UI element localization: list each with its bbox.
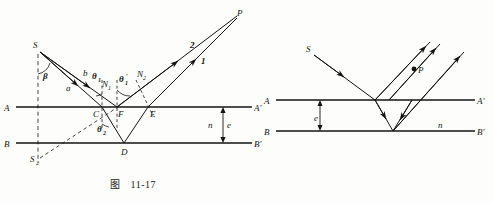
label-surface-B: B: [4, 139, 10, 149]
label-point-E: E: [149, 109, 156, 119]
label-surface-A-prime: A': [476, 96, 485, 106]
label-normal-N1: N 1: [101, 79, 111, 91]
label-point-D: D: [120, 147, 128, 157]
figure-11-17-caption: 图11-17: [110, 176, 156, 191]
angle-theta1-prime-arc: [117, 90, 130, 96]
caption-number: 11-17: [131, 179, 156, 190]
svg-text:2: 2: [36, 160, 39, 166]
incident-ray-S-arrow: [314, 55, 344, 77]
figure-11-18: S P A A' B B' e n 图11-18: [262, 0, 493, 203]
label-segment-a: a: [66, 83, 71, 93]
second-emergent-ray-arrow: [393, 56, 460, 131]
label-point-F: F: [117, 109, 124, 119]
label-index-n: n: [208, 120, 213, 130]
figure-11-18-drawing: S P A A' B B' e n: [262, 0, 493, 175]
label-surface-A: A: [3, 103, 10, 113]
caption-prefix: 图: [110, 179, 121, 190]
svg-text:′: ′: [126, 73, 128, 79]
figure-page: S P C F E D A A' B B' β a b θ 1 N 1 θ: [0, 0, 493, 203]
svg-text:1: 1: [98, 77, 101, 83]
label-surface-B: B: [264, 127, 270, 137]
label-normal-N2: N 2: [136, 69, 146, 81]
svg-text:1: 1: [125, 80, 128, 86]
label-index-n: n: [438, 120, 443, 130]
svg-text:2: 2: [102, 130, 106, 136]
svg-text:2: 2: [143, 75, 146, 81]
svg-text:S: S: [30, 154, 35, 164]
thickness-arrow-down: [318, 125, 323, 131]
reflected-ray-D-to-E: [124, 107, 148, 143]
label-surface-A: A: [263, 96, 270, 106]
label-angle-theta1: θ 1: [92, 71, 101, 83]
figure-11-17-drawing: S P C F E D A A' B B' β a b θ 1 N 1 θ: [0, 0, 262, 175]
label-angle-beta: β: [42, 71, 48, 81]
angle-theta2-arc: [102, 124, 109, 127]
svg-text:θ: θ: [97, 124, 102, 134]
figure-11-17: S P C F E D A A' B B' β a b θ 1 N 1 θ: [0, 0, 262, 203]
label-point-P: P: [236, 8, 243, 18]
emergent-ray-through-P-arrow: [389, 48, 436, 100]
svg-text:θ: θ: [92, 71, 97, 81]
label-source-S: S: [33, 40, 38, 50]
label-source-S: S: [306, 44, 311, 54]
thickness-arrow-down: [220, 137, 225, 143]
label-thickness-e: e: [314, 113, 318, 123]
label-point-C: C: [93, 109, 100, 119]
svg-text:1: 1: [108, 85, 111, 91]
point-P-dot: [412, 67, 417, 72]
label-point-P: P: [417, 65, 424, 75]
svg-text:θ: θ: [119, 74, 124, 84]
thickness-arrow-up: [318, 100, 323, 106]
label-surface-B-prime: B': [477, 127, 485, 137]
thickness-arrow-up: [220, 107, 225, 113]
label-segment-b: b: [83, 68, 88, 78]
label-ray-2: 2: [189, 40, 195, 50]
label-angle-theta1-prime: θ 1 ′: [119, 73, 128, 86]
emergent-ray-1-arrow: [148, 59, 196, 107]
refracted-ray-inside-film-arrow: [375, 100, 386, 119]
label-ray-1: 1: [201, 56, 206, 66]
label-thickness-e: e: [227, 120, 231, 130]
